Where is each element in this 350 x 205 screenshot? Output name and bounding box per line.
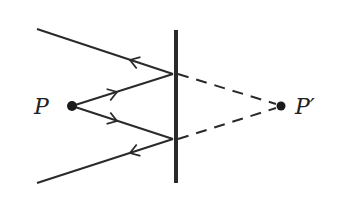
virtual-ray-upper: [178, 74, 276, 104]
image-point: [277, 102, 286, 111]
reflected-ray-lower: [37, 139, 173, 183]
virtual-ray-lower: [178, 108, 276, 139]
mirror: [174, 30, 178, 183]
reflected-ray-upper: [37, 29, 173, 74]
object-label: P: [33, 94, 50, 119]
reflection-diagram: P P′: [0, 0, 350, 205]
image-label: P′: [294, 94, 315, 119]
incident-ray-lower: [72, 106, 173, 139]
incident-ray-upper: [72, 74, 173, 106]
object-point: [67, 101, 77, 111]
